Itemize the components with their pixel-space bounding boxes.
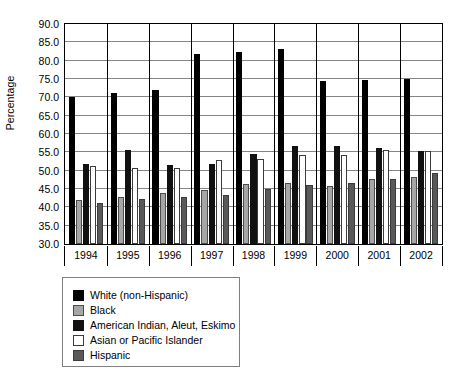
y-axis-tick-label: 40.0: [15, 202, 59, 212]
bar: [362, 80, 368, 244]
bar: [125, 150, 131, 244]
y-axis-tick-label: 45.0: [15, 184, 59, 194]
bar: [376, 148, 382, 244]
y-axis-tick-label: 85.0: [15, 37, 59, 47]
bar: [118, 197, 124, 244]
bar: [152, 90, 158, 244]
y-axis-tick-label: 50.0: [15, 166, 59, 176]
bar-chart: Percentage 90.085.080.075.070.065.060.05…: [0, 0, 460, 384]
bar: [418, 151, 424, 245]
bar: [306, 185, 312, 244]
x-axis-tick-label: 2000: [316, 249, 358, 262]
legend: White (non-Hispanic)BlackAmerican Indian…: [62, 277, 240, 367]
x-axis-tick-label: 1994: [65, 249, 107, 262]
y-axis-tick-label: 35.0: [15, 221, 59, 231]
x-axis-tick-label: 1997: [191, 249, 233, 262]
bars-layer: [65, 24, 442, 244]
bar: [97, 203, 103, 244]
bar-group: [400, 24, 442, 244]
bar: [411, 177, 417, 244]
bar: [83, 164, 89, 244]
bar: [292, 146, 298, 244]
legend-item-label: White (non-Hispanic): [90, 289, 188, 301]
bar: [334, 146, 340, 244]
bar: [432, 173, 438, 245]
bar-group: [274, 24, 316, 244]
bar-group: [191, 24, 233, 244]
legend-swatch-white-non-hispanic-icon: [73, 290, 84, 301]
legend-item: Asian or Pacific Islander: [73, 333, 203, 347]
bar: [223, 195, 229, 245]
bar: [194, 54, 200, 244]
bar: [265, 189, 271, 244]
bar: [236, 52, 242, 245]
bar: [348, 183, 354, 244]
y-axis-tick-label: 75.0: [15, 74, 59, 84]
bar: [404, 79, 410, 244]
bar: [174, 168, 180, 244]
y-axis-tick-label: 60.0: [15, 129, 59, 139]
y-axis-tick-label: 65.0: [15, 111, 59, 121]
bar: [139, 199, 145, 244]
y-axis-tick-label: 55.0: [15, 147, 59, 157]
x-axis-tick-label: 1995: [107, 249, 149, 262]
bar: [320, 81, 326, 244]
bar-group: [65, 24, 107, 244]
bar: [216, 160, 222, 244]
bar: [69, 97, 75, 244]
x-axis-tick-label: 1998: [233, 249, 275, 262]
y-axis-tick-label: 90.0: [15, 19, 59, 29]
x-axis-labels: 199419951996199719981999200020012002: [64, 246, 443, 266]
bar: [341, 155, 347, 244]
x-axis-tick-label: 1996: [149, 249, 191, 262]
bar: [285, 183, 291, 244]
bar: [181, 197, 187, 244]
bar: [278, 49, 284, 244]
legend-swatch-hispanic-icon: [73, 350, 84, 361]
y-axis-tick-label: 30.0: [15, 239, 59, 249]
bar: [132, 168, 138, 244]
bar: [90, 166, 96, 244]
bar: [425, 151, 431, 244]
bar-group: [107, 24, 149, 244]
bar: [327, 186, 333, 244]
legend-item-label: Hispanic: [90, 349, 130, 361]
bar-group: [233, 24, 275, 244]
bar: [250, 154, 256, 244]
bar: [76, 200, 82, 244]
legend-swatch-american-indian-icon: [73, 320, 84, 331]
bar-group: [358, 24, 400, 244]
bar: [257, 159, 263, 244]
x-axis-tick-label: 1999: [274, 249, 316, 262]
y-axis-tick-label: 70.0: [15, 92, 59, 102]
bar: [243, 184, 249, 244]
legend-item: American Indian, Aleut, Eskimo: [73, 318, 235, 332]
bar: [160, 193, 166, 244]
x-axis-tick-label: 2001: [358, 249, 400, 262]
legend-swatch-black-icon: [73, 305, 84, 316]
bar: [369, 179, 375, 244]
y-axis-tick-label: 80.0: [15, 56, 59, 66]
legend-item: Hispanic: [73, 348, 130, 362]
legend-swatch-asian-pacific-islander-icon: [73, 335, 84, 346]
x-axis-tick-label: 2002: [400, 249, 442, 262]
bar-group: [316, 24, 358, 244]
legend-item: White (non-Hispanic): [73, 288, 188, 302]
legend-item-label: American Indian, Aleut, Eskimo: [90, 319, 235, 331]
bar: [201, 190, 207, 244]
legend-item: Black: [73, 303, 116, 317]
bar: [209, 164, 215, 244]
legend-item-label: Asian or Pacific Islander: [90, 334, 203, 346]
bar: [299, 155, 305, 244]
bar: [383, 150, 389, 244]
bar: [167, 165, 173, 244]
bar: [390, 179, 396, 244]
bar-group: [149, 24, 191, 244]
bar: [111, 93, 117, 244]
legend-item-label: Black: [90, 304, 116, 316]
